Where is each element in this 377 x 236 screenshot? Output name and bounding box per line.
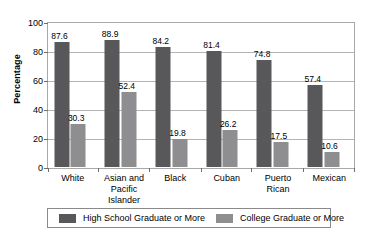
y-tick-label: 60	[8, 76, 48, 86]
x-tick-mark	[98, 168, 99, 172]
legend-swatch	[59, 214, 76, 223]
bar: 57.4	[308, 85, 323, 167]
bar: 30.3	[71, 124, 86, 167]
bar-value-label: 17.5	[271, 131, 288, 142]
y-tick-label: 100	[8, 18, 48, 28]
x-axis-category-label: PuertoRican	[252, 173, 303, 206]
bar-value-label: 74.8	[254, 49, 271, 60]
bar-value-label: 84.2	[153, 36, 170, 47]
bar-group: 88.952.4	[100, 24, 151, 167]
x-tick-mark	[48, 168, 49, 172]
x-tick-mark	[149, 168, 150, 172]
bar-value-label: 87.6	[51, 31, 68, 42]
bar: 10.6	[324, 152, 339, 167]
bar-value-label: 81.4	[203, 40, 220, 51]
legend-entry: High School Graduate or More	[59, 213, 205, 223]
bar-group: 81.426.2	[201, 24, 252, 167]
x-axis-category-label: Mexican	[304, 173, 355, 206]
bar-value-label: 57.4	[305, 74, 322, 85]
plot-area: 020406080100 87.630.388.952.484.219.881.…	[47, 22, 355, 169]
bar-value-label: 19.8	[169, 128, 186, 139]
x-axis-labels: WhiteAsian andPacificIslanderBlackCubanP…	[47, 173, 355, 206]
bar: 87.6	[54, 42, 69, 167]
bar: 84.2	[156, 47, 171, 167]
bar: 74.8	[257, 60, 272, 167]
y-tick-label: 80	[8, 47, 48, 57]
bar-group: 57.410.6	[302, 24, 353, 167]
legend-swatch	[216, 214, 233, 223]
x-tick-mark	[303, 168, 304, 172]
x-axis-category-label: White	[47, 173, 98, 206]
bar: 19.8	[172, 139, 187, 167]
bar: 52.4	[122, 92, 137, 167]
x-tick-mark	[201, 168, 202, 172]
bar: 88.9	[105, 40, 120, 167]
y-tick-label: 40	[8, 105, 48, 115]
x-axis-category-label: Asian andPacificIslander	[98, 173, 149, 206]
bar-value-label: 52.4	[119, 81, 136, 92]
legend-label: College Graduate or More	[240, 213, 344, 223]
legend-entry: College Graduate or More	[216, 213, 344, 223]
bar-group: 74.817.5	[252, 24, 303, 167]
bar-value-label: 88.9	[102, 29, 119, 40]
y-tick-label: 0	[8, 163, 48, 173]
bar-group: 87.630.3	[49, 24, 100, 167]
bar-value-label: 30.3	[68, 113, 85, 124]
bar-groups: 87.630.388.952.484.219.881.426.274.817.5…	[49, 24, 353, 167]
bar: 17.5	[274, 142, 289, 167]
bar-chart-figure: Percentage 020406080100 87.630.388.952.4…	[0, 0, 377, 236]
bar-group: 84.219.8	[150, 24, 201, 167]
bar: 26.2	[223, 130, 238, 167]
chart-legend: High School Graduate or MoreCollege Grad…	[47, 208, 331, 228]
x-tick-mark	[354, 168, 355, 172]
bar-value-label: 26.2	[220, 119, 237, 130]
x-axis-category-label: Cuban	[201, 173, 252, 206]
y-tick-label: 20	[8, 134, 48, 144]
bar-value-label: 10.6	[321, 141, 338, 152]
bar: 81.4	[206, 51, 221, 167]
x-tick-mark	[251, 168, 252, 172]
legend-label: High School Graduate or More	[83, 213, 205, 223]
x-axis-category-label: Black	[150, 173, 201, 206]
